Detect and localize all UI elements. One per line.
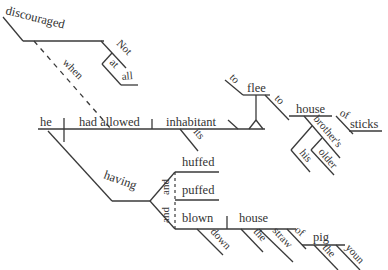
word-discouraged: discouraged <box>4 3 67 31</box>
word-straw: straw <box>271 224 296 250</box>
word-blown: blown <box>182 211 214 225</box>
word-the2: the <box>321 241 339 259</box>
complement-slash <box>228 120 238 129</box>
word-the1: the <box>252 225 270 243</box>
word-huffed: huffed <box>182 155 215 169</box>
word-young: youn <box>344 241 368 266</box>
word-of2: of <box>293 223 308 238</box>
word-sticks: sticks <box>350 117 379 131</box>
word-subject: he <box>40 115 52 129</box>
word-pig: pig <box>313 230 330 244</box>
word-and-2: and <box>159 207 171 223</box>
word-puffed: puffed <box>182 183 215 197</box>
word-at: at <box>108 56 122 70</box>
line-having-slant <box>48 131 112 201</box>
line-older-connector <box>311 138 322 150</box>
word-house2: house <box>239 211 269 225</box>
stand-left <box>249 120 256 129</box>
infinitive-phrase: to flee to house of sticks brother's his… <box>225 71 382 175</box>
sentence-diagram: he had allowed inhabitant its to flee to… <box>0 0 388 270</box>
main-clause: he had allowed inhabitant its <box>38 95 265 151</box>
word-when: when <box>61 56 87 82</box>
adverb-clause: discouraged when Not at all <box>3 3 138 129</box>
stand-right <box>256 120 263 129</box>
word-having: having <box>102 168 139 193</box>
word-all: all <box>121 69 133 82</box>
word-flee: flee <box>247 81 266 95</box>
word-object: inhabitant <box>166 115 217 129</box>
line-his-connector <box>291 126 312 150</box>
word-older: older <box>316 146 340 171</box>
word-not: Not <box>115 37 135 57</box>
word-and-1: and <box>159 179 171 195</box>
